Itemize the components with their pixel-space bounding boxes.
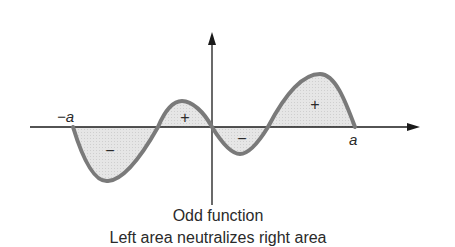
sign-right-large-lobe: + — [310, 96, 319, 113]
pos-a-label: a — [349, 131, 357, 148]
neg-a-label: −a — [57, 108, 74, 125]
y-axis-arrow-icon — [208, 32, 216, 45]
sign-left-small-lobe: + — [180, 109, 189, 126]
caption-subtitle: Left area neutralizes right area — [0, 229, 436, 247]
shaded-region-left-negative — [73, 127, 158, 181]
sign-left-large-lobe: − — [105, 142, 114, 159]
caption-title: Odd function — [0, 207, 436, 225]
x-axis-arrow-icon — [407, 123, 420, 131]
sign-right-small-lobe: − — [237, 130, 246, 147]
